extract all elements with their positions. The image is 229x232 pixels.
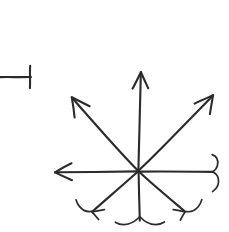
drawing-canvas: Hand-drawn radial arrow star diagram A f…: [0, 0, 229, 232]
sketch-svg: [0, 0, 229, 232]
arm-northeast: [139, 95, 213, 170]
arm-west: [55, 163, 138, 180]
arm-southwest: [76, 172, 137, 220]
arm-southeast: [139, 172, 201, 220]
arm-northwest: [72, 97, 138, 170]
perpendicular-tee-icon: [0, 66, 31, 88]
arm-north: [133, 72, 149, 171]
arm-south: [115, 172, 164, 224]
barbed-hook-southwest-icon: [76, 200, 104, 220]
radial-star-figure: [55, 72, 219, 225]
curly-brace-east-icon: [212, 155, 218, 192]
barbed-hook-southeast-icon: [173, 200, 202, 220]
